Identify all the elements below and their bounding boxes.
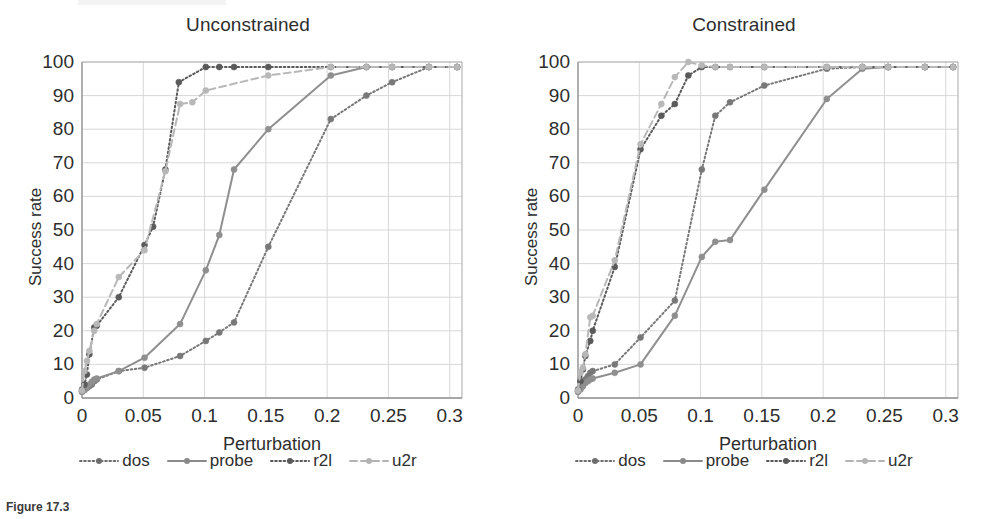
x-axis-tick-label: 0.1: [671, 406, 731, 425]
series-marker-dos: [142, 365, 148, 371]
series-marker-r2l: [658, 113, 664, 119]
series-line-u2r: [82, 67, 457, 391]
series-marker-u2r: [672, 74, 678, 80]
series-marker-u2r: [189, 99, 195, 105]
series-marker-probe: [612, 370, 618, 376]
y-axis-tick-label: 60: [549, 186, 570, 205]
series-marker-probe: [638, 361, 644, 367]
y-axis-tick-label: 30: [549, 287, 570, 306]
series-marker-u2r: [922, 64, 928, 70]
x-axis-tick-label: 0.05: [609, 406, 669, 425]
series-marker-probe: [590, 376, 596, 382]
series-marker-probe: [328, 72, 334, 78]
series-marker-probe: [203, 267, 209, 273]
series-marker-probe: [712, 239, 718, 245]
series-marker-probe: [142, 355, 148, 361]
legend-key-r2l: [766, 454, 806, 468]
x-axis-label: Perturbation: [82, 434, 462, 455]
series-marker-r2l: [672, 101, 678, 107]
figure-root: Unconstrained dosprober2lu2r 01020304050…: [0, 0, 993, 519]
series-marker-probe: [231, 167, 237, 173]
series-marker-u2r: [426, 64, 432, 70]
series-marker-u2r: [79, 388, 85, 394]
legend-key-dos: [575, 454, 615, 468]
series-marker-u2r: [612, 257, 618, 263]
legend-key-probe: [167, 454, 207, 468]
y-axis-tick-label: 20: [549, 321, 570, 340]
y-axis-tick-label: 100: [538, 52, 570, 71]
series-marker-u2r: [84, 358, 90, 364]
x-axis-tick-label: 0.25: [358, 406, 418, 425]
legend-key-u2r: [349, 454, 389, 468]
series-marker-dos: [638, 335, 644, 341]
series-marker-probe: [177, 321, 183, 327]
legend-key-r2l: [270, 454, 310, 468]
series-marker-u2r: [86, 348, 92, 354]
x-axis-tick-label: 0.15: [732, 406, 792, 425]
series-marker-dos: [328, 116, 334, 122]
series-marker-probe: [265, 126, 271, 132]
y-axis-tick-label: 50: [53, 220, 74, 239]
series-marker-r2l: [116, 294, 122, 300]
series-marker-u2r: [590, 313, 596, 319]
series-marker-r2l: [685, 72, 691, 78]
series-marker-u2r: [203, 88, 209, 94]
x-axis-tick-label: 0.05: [113, 406, 173, 425]
series-marker-u2r: [658, 101, 664, 107]
x-axis-tick-label: 0.25: [854, 406, 914, 425]
caption-label: Figure 17.3: [6, 500, 69, 514]
chart-panel-constrained: Constrained dosprober2lu2r 0102030405060…: [496, 0, 992, 495]
figure-caption: Figure 17.3: [6, 500, 69, 519]
series-marker-u2r: [727, 64, 733, 70]
y-axis-tick-label: 100: [42, 52, 74, 71]
series-marker-r2l: [587, 338, 593, 344]
series-marker-u2r: [91, 328, 97, 334]
series-marker-u2r: [142, 247, 148, 253]
series-marker-probe: [94, 376, 100, 382]
chart-panel-unconstrained: Unconstrained dosprober2lu2r 01020304050…: [0, 0, 496, 495]
x-axis-tick-label: 0.3: [420, 406, 480, 425]
y-axis-label: Success rate: [26, 188, 46, 286]
series-marker-dos: [203, 338, 209, 344]
y-axis-tick-label: 90: [53, 86, 74, 105]
series-line-dos: [82, 67, 457, 391]
y-axis-tick-label: 20: [53, 321, 74, 340]
series-line-r2l: [82, 67, 457, 390]
y-axis-tick-label: 40: [549, 254, 570, 273]
series-marker-r2l: [265, 64, 271, 70]
x-axis-tick-label: 0.2: [793, 406, 853, 425]
x-axis-tick-label: 0.2: [297, 406, 357, 425]
series-marker-dos: [612, 361, 618, 367]
series-marker-dos: [672, 298, 678, 304]
y-axis-tick-label: 0: [63, 388, 74, 407]
series-marker-r2l: [590, 328, 596, 334]
series-marker-dos: [699, 167, 705, 173]
series-marker-probe: [824, 96, 830, 102]
series-marker-dos: [363, 93, 369, 99]
series-line-probe: [82, 67, 457, 392]
panels-container: Unconstrained dosprober2lu2r 01020304050…: [0, 0, 993, 495]
series-line-r2l: [578, 67, 953, 390]
series-marker-r2l: [203, 64, 209, 70]
series-marker-dos: [590, 368, 596, 374]
series-marker-u2r: [885, 64, 891, 70]
series-marker-r2l: [176, 79, 182, 85]
y-axis-tick-label: 50: [549, 220, 570, 239]
x-axis-label: Perturbation: [578, 434, 958, 455]
series-marker-u2r: [116, 274, 122, 280]
series-marker-u2r: [580, 365, 586, 371]
plot-svg-right: [496, 0, 992, 450]
y-axis-tick-label: 10: [549, 354, 570, 373]
series-marker-probe: [727, 237, 733, 243]
series-marker-u2r: [389, 64, 395, 70]
series-marker-probe: [116, 368, 122, 374]
series-marker-u2r: [162, 168, 168, 174]
series-marker-dos: [727, 99, 733, 105]
series-marker-r2l: [231, 64, 237, 70]
series-marker-u2r: [575, 388, 581, 394]
x-axis-tick-label: 0: [52, 406, 112, 425]
series-marker-u2r: [363, 64, 369, 70]
y-axis-tick-label: 30: [53, 287, 74, 306]
series-marker-u2r: [950, 64, 956, 70]
series-marker-u2r: [712, 64, 718, 70]
